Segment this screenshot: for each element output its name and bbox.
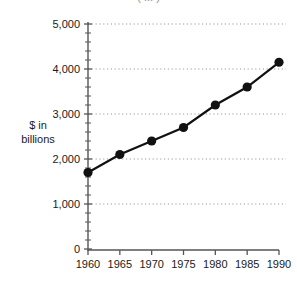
y-axis-tick-label: 4,000 [32, 63, 80, 75]
data-point-marker [274, 58, 283, 67]
data-point-marker [243, 82, 252, 91]
data-point-marker [211, 100, 220, 109]
line-chart: ( ... ) $ in billions 01,0002,0003,0004,… [0, 0, 297, 282]
x-axis-ticks [88, 250, 279, 255]
data-point-marker [83, 168, 92, 177]
y-axis-tick-label: 0 [32, 243, 80, 255]
data-point-marker [147, 136, 156, 145]
y-axis-tick-label: 5,000 [32, 18, 80, 30]
data-point-marker [115, 150, 124, 159]
data-point-marker [179, 123, 188, 132]
y-axis-tick-label: 1,000 [32, 198, 80, 210]
chart-canvas [0, 0, 297, 282]
y-axis-tick-label: 3,000 [32, 108, 80, 120]
y-axis-tick-label: 2,000 [32, 153, 80, 165]
x-axis-tick-label: 1990 [259, 258, 297, 270]
gridlines [88, 24, 286, 204]
